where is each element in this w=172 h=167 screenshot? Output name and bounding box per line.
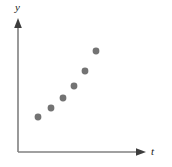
scatter-plot-figure: y t bbox=[0, 0, 172, 167]
x-axis-arrowhead-icon bbox=[136, 148, 146, 156]
y-axis-arrowhead-icon bbox=[14, 18, 22, 28]
data-point bbox=[35, 114, 42, 121]
data-point bbox=[60, 95, 67, 102]
x-axis-label: t bbox=[151, 146, 154, 157]
axes-group bbox=[14, 18, 146, 156]
plot-canvas bbox=[0, 0, 172, 167]
y-axis-label: y bbox=[15, 2, 20, 13]
data-point-group bbox=[35, 48, 100, 121]
data-point bbox=[93, 48, 100, 55]
data-point bbox=[82, 68, 89, 75]
data-point bbox=[48, 105, 55, 112]
data-point bbox=[71, 83, 78, 90]
